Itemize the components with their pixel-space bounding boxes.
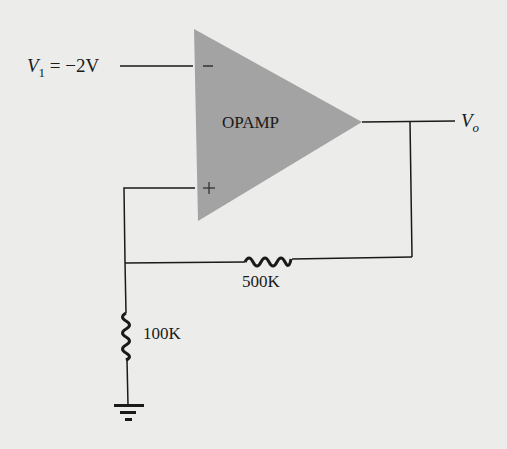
- output-voltage-label: Vo: [461, 110, 479, 136]
- input-var: V: [27, 55, 39, 76]
- input-voltage-label: V1 = −2V: [27, 55, 99, 81]
- ground-wire: [127, 360, 128, 405]
- resistor-100k-label: 100K: [143, 324, 181, 344]
- feedback-wire: [125, 262, 245, 263]
- resistor-100k-icon: [123, 313, 130, 360]
- output-var: V: [461, 110, 473, 131]
- feedback-wire-right: [292, 257, 412, 259]
- noninverting-wire: [124, 188, 195, 262]
- opamp-label: OPAMP: [222, 113, 279, 133]
- resistor-500k-icon: [245, 258, 291, 266]
- ground-branch-wire: [125, 262, 126, 313]
- output-wire: [362, 121, 455, 122]
- resistor-500k-label: 500K: [242, 272, 280, 292]
- input-subscript: 1: [39, 65, 46, 80]
- output-subscript: o: [473, 120, 480, 135]
- input-value: = −2V: [50, 55, 99, 76]
- ground-icon: [114, 404, 144, 421]
- feedback-right-wire: [410, 121, 412, 257]
